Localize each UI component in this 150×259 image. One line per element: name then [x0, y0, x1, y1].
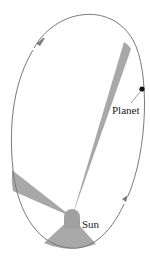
medium-sector-side [12, 170, 72, 217]
thin-sector-far [72, 42, 131, 217]
planet-label: Planet [112, 104, 140, 116]
sun-label: Sun [82, 218, 100, 230]
planet [139, 86, 144, 91]
planet-leader-line [131, 92, 140, 103]
orbit-diagram: Planet Sun [0, 0, 150, 259]
sun-body-lower [64, 218, 80, 229]
direction-arrow-bottom-right [122, 195, 128, 202]
